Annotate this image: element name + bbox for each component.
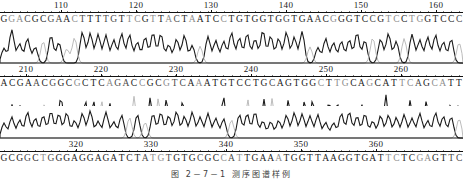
base-letter: T — [119, 13, 125, 26]
base-letter: G — [79, 152, 86, 165]
base-letter: A — [307, 13, 314, 26]
base-letter: T — [244, 13, 250, 26]
base-letter: T — [119, 152, 125, 165]
base-letter: G — [205, 152, 212, 165]
base-letter: A — [110, 152, 117, 165]
base-letter: T — [127, 13, 133, 26]
base-letter: G — [110, 13, 117, 26]
base-letter: C — [431, 77, 437, 90]
base-letter: C — [236, 77, 242, 90]
base-letter: T — [103, 13, 109, 26]
base-letter: C — [42, 77, 48, 90]
base-letter: G — [0, 13, 7, 26]
sequencing-chromatogram-figure: 110120130140150160 GGACGCGAACTTTTGTTCGTT… — [0, 0, 463, 182]
base-letter: G — [48, 152, 55, 165]
base-letter: T — [291, 13, 297, 26]
base-letter: T — [182, 152, 188, 165]
base-letter: C — [9, 152, 15, 165]
chromatogram-panel-3: 320330340350360 GCGGCTGGGAGGAGATCTATGTGT… — [0, 106, 463, 165]
base-letter: A — [314, 13, 321, 26]
base-letter: A — [369, 152, 376, 165]
base-letter: G — [252, 152, 259, 165]
base-letter: C — [407, 77, 413, 90]
base-letter: C — [448, 13, 454, 26]
chromatogram-panel-1: 110120130140150160 GGACGCGAACTTTTGTTCGTT… — [0, 0, 463, 64]
base-letter: C — [440, 13, 446, 26]
base-letter: T — [433, 13, 439, 26]
base-letter: G — [346, 13, 353, 26]
base-letter: T — [315, 152, 321, 165]
base-letter: C — [245, 77, 251, 90]
base-letter: G — [377, 13, 384, 26]
base-letter: C — [32, 152, 38, 165]
base-letter: G — [424, 13, 431, 26]
base-letter: T — [87, 13, 93, 26]
base-letter: C — [456, 152, 462, 165]
base-letter: T — [91, 77, 97, 90]
base-letter: T — [391, 77, 397, 90]
base-letter: G — [87, 152, 94, 165]
panel-1-ruler: 110120130140150160 — [0, 0, 463, 13]
base-letter: T — [253, 77, 259, 90]
base-letter: G — [63, 152, 70, 165]
base-letter: A — [259, 152, 266, 165]
base-letter: G — [16, 152, 23, 165]
base-letter: A — [16, 13, 23, 26]
base-letter: G — [283, 13, 290, 26]
base-letter: T — [95, 13, 101, 26]
base-letter: T — [448, 77, 454, 90]
base-letter: C — [82, 77, 88, 90]
base-letter: A — [142, 152, 149, 165]
base-letter: A — [197, 13, 204, 26]
base-letter: A — [189, 13, 196, 26]
base-letter: A — [33, 77, 40, 90]
base-letter: G — [32, 13, 39, 26]
base-letter: A — [439, 77, 446, 90]
base-letter: G — [330, 13, 337, 26]
base-letter: A — [424, 152, 431, 165]
base-letter: C — [393, 13, 399, 26]
trace-channel-light — [0, 38, 463, 63]
base-letter: A — [187, 77, 194, 90]
base-letter: A — [122, 77, 129, 90]
base-letter: G — [291, 152, 298, 165]
base-letter: C — [375, 77, 381, 90]
base-letter: C — [9, 77, 15, 90]
base-letter: A — [267, 152, 274, 165]
base-letter: C — [98, 77, 104, 90]
base-letter: T — [166, 152, 172, 165]
base-letter: G — [0, 152, 7, 165]
base-letter: G — [173, 152, 180, 165]
base-letter: G — [163, 77, 170, 90]
base-letter: C — [220, 13, 226, 26]
panel-3-base-sequence: GCGGCTGGGAGGAGATCTATGTGTGCGCCATTGAAATGGT… — [0, 152, 463, 165]
base-letter: C — [409, 152, 415, 165]
base-letter: T — [172, 77, 178, 90]
base-letter: C — [24, 13, 30, 26]
base-letter: C — [139, 77, 145, 90]
base-letter: G — [147, 77, 154, 90]
base-letter: G — [416, 13, 423, 26]
base-letter: T — [386, 152, 392, 165]
base-letter: C — [350, 77, 356, 90]
base-letter: A — [277, 77, 284, 90]
trace-channel-dark — [0, 111, 463, 138]
base-letter: G — [309, 77, 316, 90]
base-letter: T — [212, 77, 218, 90]
base-letter: T — [229, 13, 235, 26]
base-letter: G — [346, 152, 353, 165]
panel-2-ruler: 210220230240250260 — [0, 64, 463, 77]
base-letter: A — [204, 77, 211, 90]
base-letter: T — [334, 77, 340, 90]
base-letter: C — [180, 77, 186, 90]
base-letter: A — [71, 152, 78, 165]
base-letter: T — [307, 152, 313, 165]
base-letter: C — [370, 13, 376, 26]
base-letter: G — [24, 152, 31, 165]
base-letter: T — [386, 13, 392, 26]
figure-caption: 图 2－7－1 测序图谱样例 — [0, 169, 463, 182]
panel-3-trace — [0, 106, 463, 139]
base-letter: G — [236, 13, 243, 26]
base-letter: C — [40, 13, 46, 26]
base-letter: A — [358, 77, 365, 90]
